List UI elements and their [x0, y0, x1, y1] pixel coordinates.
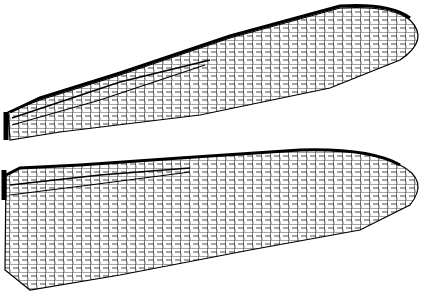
wings-drawing	[0, 0, 425, 303]
hindwing	[0, 140, 425, 303]
forewing	[0, 0, 425, 150]
dragonfly-wings-illustration	[0, 0, 425, 303]
